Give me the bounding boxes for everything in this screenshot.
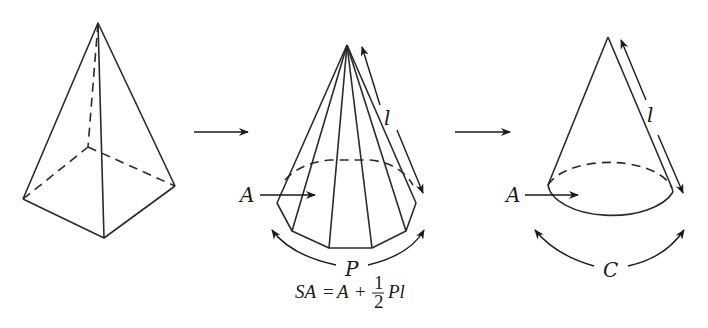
slant-height-arrow [362,47,380,105]
square-pyramid [23,23,175,238]
circumference-arrow-right [628,230,684,266]
cone: l A C [504,37,684,282]
base-area-label: A [504,183,520,207]
base-area-label: A [238,183,254,207]
slant-height-arrow [621,40,646,100]
perimeter-label: P [344,257,359,281]
svg-text:=: = [323,281,334,302]
slant-height-label: l [647,103,653,127]
circumference-label: C [603,258,618,282]
svg-text:Pl: Pl [387,281,405,302]
diagram-canvas: l A P SA = A + 1 2 Pl l A C [0,0,708,328]
slant-height-label: l [384,106,390,130]
polygonal-pyramid: l A P [238,45,424,281]
svg-text:A: A [335,281,349,302]
svg-text:+: + [355,281,366,302]
svg-text:1: 1 [374,272,384,293]
svg-text:2: 2 [374,291,384,312]
circumference-arrow-left [535,230,594,266]
svg-text:SA: SA [295,281,317,302]
slant-height-arrow [397,130,423,193]
